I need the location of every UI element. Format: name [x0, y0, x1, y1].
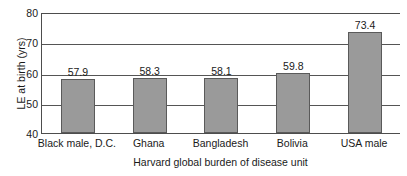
y-axis-tick-labels: 8070605040: [8, 0, 38, 176]
bar[interactable]: [348, 32, 382, 133]
bars-group: 57.958.358.159.873.4: [42, 14, 400, 133]
bar-value-label: 73.4: [355, 20, 375, 31]
bar-slot: 73.4: [329, 14, 401, 133]
bar-value-label: 58.1: [211, 66, 231, 77]
bar[interactable]: [61, 79, 95, 133]
bar-slot: 57.9: [42, 14, 114, 133]
bar-slot: 58.1: [186, 14, 258, 133]
x-axis-title: Harvard global burden of disease unit: [41, 156, 400, 169]
y-axis-tick-label: 40: [12, 129, 38, 139]
x-axis-tick-label: Bolivia: [277, 137, 308, 150]
y-axis-tick-label: 80: [12, 8, 38, 18]
bar[interactable]: [133, 78, 167, 133]
bar-chart: LE at birth (yrs) 8070605040 57.958.358.…: [0, 0, 407, 176]
y-axis-tick-label: 60: [12, 69, 38, 79]
x-axis-tick-label: Black male, D.C.: [38, 137, 116, 150]
x-axis-tick-label: Ghana: [133, 137, 165, 150]
y-axis-tick-label: 70: [12, 38, 38, 48]
bar-value-label: 58.3: [139, 66, 159, 77]
plot-area: 57.958.358.159.873.4: [41, 13, 400, 134]
bar[interactable]: [276, 73, 310, 133]
x-axis-tick-label: USA male: [341, 137, 388, 150]
x-axis-tick-labels: Black male, D.C.GhanaBangladeshBoliviaUS…: [41, 137, 400, 151]
bar[interactable]: [204, 78, 238, 133]
bar-slot: 58.3: [114, 14, 186, 133]
y-axis-tick-label: 50: [12, 99, 38, 109]
x-axis-tick-label: Bangladesh: [193, 137, 248, 150]
bar-value-label: 59.8: [283, 61, 303, 72]
bar-slot: 59.8: [257, 14, 329, 133]
bar-value-label: 57.9: [68, 67, 88, 78]
